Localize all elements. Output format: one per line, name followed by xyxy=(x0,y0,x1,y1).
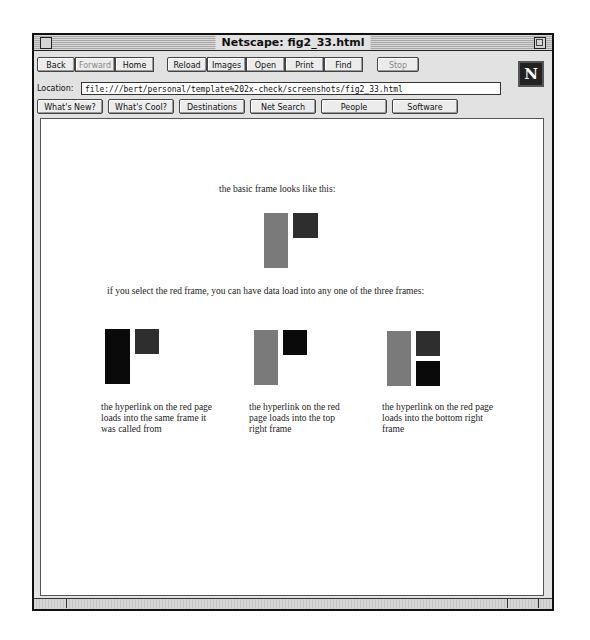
example2-top-right-frame xyxy=(283,330,307,355)
print-button[interactable]: Print xyxy=(285,57,324,72)
window-title: Netscape: fig2_33.html xyxy=(216,35,371,50)
security-indicator-icon xyxy=(36,599,67,608)
basic-top-right-frame xyxy=(293,213,318,238)
images-button[interactable]: Images xyxy=(207,57,246,72)
select-text: if you select the red frame, you can hav… xyxy=(107,286,424,297)
example1-caption-line2: loads into the same frame it xyxy=(101,413,206,424)
page-content: the basic frame looks like this: if you … xyxy=(40,118,544,596)
stop-button[interactable]: Stop xyxy=(377,57,419,72)
home-button[interactable]: Home xyxy=(115,57,154,72)
browser-window: Netscape: fig2_33.html Back Forward Home… xyxy=(32,33,554,611)
example3-top-right-frame xyxy=(416,331,440,356)
forward-button[interactable]: Forward xyxy=(75,57,115,72)
basic-left-frame xyxy=(264,213,288,268)
people-button[interactable]: People xyxy=(321,99,387,114)
whats-cool-button[interactable]: What's Cool? xyxy=(108,99,174,114)
net-search-button[interactable]: Net Search xyxy=(250,99,316,114)
example3-caption-line1: the hyperlink on the red page xyxy=(382,402,493,413)
netscape-logo-icon[interactable]: N xyxy=(518,61,544,87)
destinations-button[interactable]: Destinations xyxy=(179,99,245,114)
example1-top-right-frame xyxy=(135,329,159,354)
example3-caption-line3: frame xyxy=(382,424,404,435)
resize-grip-icon[interactable] xyxy=(538,599,552,608)
status-bar xyxy=(34,598,552,609)
example2-caption-line2: page loads into the top xyxy=(249,413,335,424)
example2-left-frame xyxy=(254,330,278,385)
mail-indicator-icon[interactable] xyxy=(507,599,538,608)
example3-bottom-right-frame xyxy=(416,361,440,386)
title-bar[interactable]: Netscape: fig2_33.html xyxy=(34,35,552,51)
example3-caption-line2: loads into the bottom right xyxy=(382,413,483,424)
example2-caption-line1: the hyperlink on the red xyxy=(249,402,340,413)
example3-left-frame xyxy=(387,331,411,386)
example1-caption-line3: was called from xyxy=(101,424,162,435)
whats-new-button[interactable]: What's New? xyxy=(37,99,103,114)
example1-left-frame xyxy=(105,329,130,384)
intro-text: the basic frame looks like this: xyxy=(219,184,335,195)
software-button[interactable]: Software xyxy=(392,99,458,114)
example1-caption-line1: the hyperlink on the red page xyxy=(101,402,212,413)
example2-caption-line3: right frame xyxy=(249,424,291,435)
location-label: Location: xyxy=(37,83,74,95)
find-button[interactable]: Find xyxy=(324,57,363,72)
location-input[interactable]: file:///bert/personal/template%202x-chec… xyxy=(81,82,501,95)
back-button[interactable]: Back xyxy=(37,57,75,72)
reload-button[interactable]: Reload xyxy=(167,57,207,72)
close-box-icon[interactable] xyxy=(40,37,52,49)
open-button[interactable]: Open xyxy=(246,57,285,72)
zoom-box-icon[interactable] xyxy=(534,37,546,49)
